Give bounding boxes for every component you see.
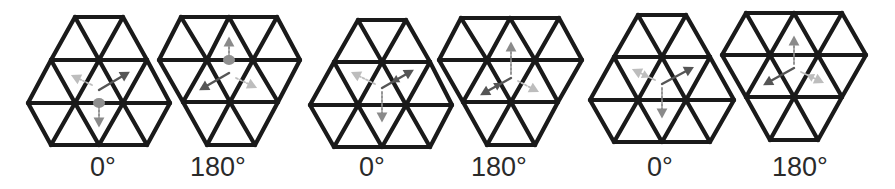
- triangular-lattice: [590, 15, 734, 142]
- angle-label: 0°: [647, 152, 673, 183]
- triangular-lattice: [159, 17, 300, 145]
- arrow-mid-icon: [789, 36, 800, 65]
- angle-label: 0°: [359, 152, 385, 183]
- angle-label: 0°: [90, 152, 116, 183]
- angle-label: 180°: [190, 152, 246, 183]
- site-dot-icon: [223, 55, 235, 65]
- triangular-lattice: [439, 18, 582, 145]
- lattice-panel-2: [159, 17, 300, 145]
- angle-label: 180°: [471, 152, 527, 183]
- arrow-mid-icon: [224, 37, 235, 58]
- lattice-panel-6: [722, 13, 866, 140]
- arrow-mid-icon: [94, 106, 105, 128]
- arrow-mid-icon: [657, 88, 668, 119]
- lattice-panel-4: [439, 18, 582, 145]
- lattice-panel-1: [28, 17, 170, 145]
- arrow-mid-icon: [506, 42, 517, 75]
- site-dot-icon: [93, 98, 105, 108]
- triangular-lattice: [722, 13, 866, 140]
- triangular-lattice: [310, 20, 452, 147]
- vector-arrows: [351, 70, 414, 123]
- lattice-panel-5: [590, 15, 734, 142]
- angle-label: 180°: [772, 152, 828, 183]
- arrow-mid-icon: [377, 92, 388, 123]
- lattice-figure: [0, 0, 895, 189]
- lattice-panel-3: [310, 20, 452, 147]
